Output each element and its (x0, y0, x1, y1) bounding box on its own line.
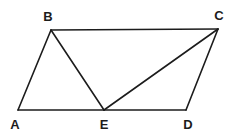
vertex-label-c: C (214, 9, 223, 22)
segment-AB (18, 30, 51, 110)
vertex-label-b: B (43, 10, 52, 23)
vertex-label-d: D (183, 118, 192, 131)
vertex-label-a: A (10, 118, 19, 131)
segment-EC (104, 29, 218, 110)
segment-BC (51, 29, 218, 30)
geometry-canvas (0, 0, 237, 136)
segment-BE (51, 30, 104, 110)
vertex-label-e: E (100, 118, 109, 131)
segment-layer (18, 29, 218, 110)
geometry-figure: ABCDE (0, 0, 237, 136)
